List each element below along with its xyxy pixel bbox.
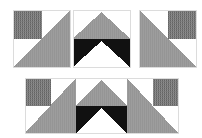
composite-strip bbox=[25, 78, 178, 133]
strip-tile-a bbox=[25, 78, 76, 133]
strip-tile-c bbox=[127, 78, 178, 133]
tile-c-hatched-square bbox=[168, 10, 197, 39]
pattern-svg bbox=[0, 0, 202, 138]
strip-tile-b bbox=[76, 78, 127, 133]
strip-tile-a-hatched-square bbox=[25, 78, 51, 106]
tile-a bbox=[13, 10, 70, 67]
tile-b bbox=[73, 10, 130, 67]
strip-tile-c-hatched-square bbox=[153, 78, 179, 106]
tile-pattern-figure bbox=[0, 0, 202, 138]
tile-a-hatched-square bbox=[13, 10, 42, 39]
tile-c bbox=[139, 10, 196, 67]
